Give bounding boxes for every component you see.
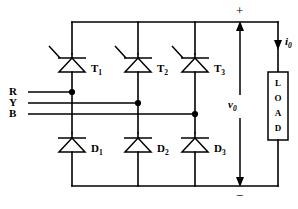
diode-3-anode-triangle — [182, 138, 208, 152]
diode-label-1: D1 — [91, 143, 103, 157]
diode-label-1-sub: 1 — [99, 148, 103, 157]
thyristor-2-gate-lead — [115, 46, 126, 58]
diode-label-2-name: D — [157, 142, 165, 154]
thyristor-3-anode-triangle — [182, 58, 208, 72]
load-letter-1: L — [268, 79, 288, 88]
circuit-diagram: R Y B T1 T2 T3 D1 D2 D3 + − v0 i0 L O A … — [0, 0, 298, 209]
diode-label-3: D3 — [214, 143, 226, 157]
diode-label-3-name: D — [214, 142, 222, 154]
output-current-label: i0 — [285, 36, 292, 50]
phase-label-b: B — [9, 108, 16, 119]
diode-1-anode-triangle — [59, 138, 85, 152]
thyristor-1-anode-triangle — [59, 58, 85, 72]
thyristor-label-1: T1 — [91, 63, 102, 77]
thyristor-label-2: T2 — [157, 63, 168, 77]
thyristor-1-gate-lead — [49, 46, 60, 58]
junction-dot-b — [192, 111, 198, 117]
diode-label-1-name: D — [91, 142, 99, 154]
thyristor-label-1-sub: 1 — [98, 68, 102, 77]
thyristor-2-anode-triangle — [125, 58, 151, 72]
junction-dot-r — [69, 89, 75, 95]
circuit-schematic-canvas — [0, 0, 298, 209]
diode-label-2: D2 — [157, 143, 169, 157]
load-letter-3: A — [268, 109, 288, 118]
positive-terminal-sign: + — [236, 4, 243, 17]
thyristor-label-3-sub: 3 — [221, 68, 225, 77]
load-letter-4: D — [268, 124, 288, 133]
thyristor-3-gate-lead — [172, 46, 183, 58]
junction-dot-y — [135, 100, 141, 106]
thyristor-label-3: T3 — [214, 63, 225, 77]
output-voltage-label: v0 — [228, 99, 237, 113]
diode-2-anode-triangle — [125, 138, 151, 152]
output-current-sub: 0 — [288, 41, 292, 50]
thyristor-label-2-sub: 2 — [164, 68, 168, 77]
negative-terminal-sign: − — [236, 189, 243, 202]
output-current-arrow-head — [274, 40, 282, 50]
output-voltage-sub: 0 — [233, 104, 237, 113]
diode-label-3-sub: 3 — [222, 148, 226, 157]
diode-label-2-sub: 2 — [165, 148, 169, 157]
load-letter-2: O — [268, 94, 288, 103]
